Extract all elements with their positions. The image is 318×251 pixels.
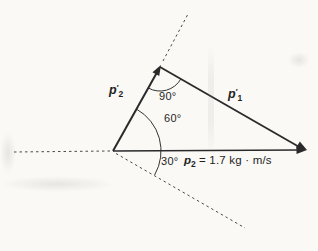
angle-label-90: 90° — [159, 91, 177, 102]
p1-prime-symbol: p — [228, 87, 236, 101]
p2-prime-label: p′2 — [109, 84, 123, 99]
p2-subscript: 2 — [191, 159, 196, 169]
p1-prime-label: p′1 — [228, 88, 242, 103]
angle-label-30: 30° — [161, 156, 179, 167]
p2-symbol: p — [184, 154, 191, 166]
dashed-line-p2prime-extension — [163, 14, 188, 61]
p1-prime-vector-line — [160, 67, 301, 148]
p2-vector-line — [113, 150, 299, 151]
p2-prime-subscript: 2 — [119, 89, 124, 99]
angle-label-60: 60° — [164, 113, 182, 124]
momentum-vector-diagram: p′2 p′1 90° 60° 30° p2 = 1.7 kg · m/s — [0, 0, 318, 251]
diagram-canvas — [0, 0, 318, 251]
p2-value-text: = 1.7 kg · m/s — [199, 154, 272, 166]
dashed-line-left-extension — [14, 151, 110, 152]
p2-equation-label: p2 = 1.7 kg · m/s — [184, 155, 272, 169]
p2-prime-symbol: p — [109, 83, 117, 97]
angle-arc-60-30 — [137, 109, 162, 175]
p2-prime-arrowhead-icon — [152, 63, 164, 76]
p1-prime-subscript: 1 — [238, 93, 243, 103]
